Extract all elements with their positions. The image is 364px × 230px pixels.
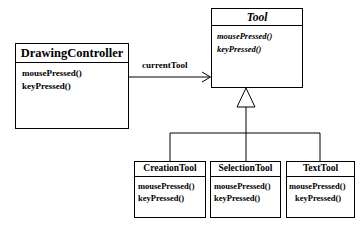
generalization-triangle-icon [237,88,255,107]
class-operations-drawingcontroller: mousePressed() keyPressed() [16,63,128,93]
operation-item: mousePressed() [22,67,124,80]
operation-item: keyPressed() [138,192,201,204]
class-name-selectiontool: SelectionTool [211,162,280,177]
class-box-tool[interactable]: Tool mousePressed() keyPressed() [211,8,303,88]
class-name-texttool: TextTool [287,162,354,177]
association-label-currenttool: currentTool [142,60,188,71]
operation-item: keyPressed() [289,192,350,204]
class-box-texttool[interactable]: TextTool mousePressed() keyPressed() [286,161,355,218]
class-name-creationtool: CreationTool [135,162,205,177]
class-operations-texttool: mousePressed() keyPressed() [287,177,354,204]
class-name-tool: Tool [212,9,302,26]
class-operations-creationtool: mousePressed() keyPressed() [135,177,205,204]
class-box-drawingcontroller[interactable]: DrawingController mousePressed() keyPres… [15,43,129,129]
operation-item: mousePressed() [138,180,201,192]
class-box-selectiontool[interactable]: SelectionTool mousePressed() keyPressed(… [210,161,281,218]
class-operations-tool: mousePressed() keyPressed() [212,26,302,56]
uml-class-diagram: Tool mousePressed() keyPressed() Drawing… [0,0,364,230]
class-operations-selectiontool: mousePressed() keyPressed() [211,177,280,204]
operation-item: mousePressed() [214,180,276,192]
operation-item: mousePressed() [217,30,298,43]
operation-item: keyPressed() [22,80,124,93]
operation-item: keyPressed() [214,192,276,204]
class-name-drawingcontroller: DrawingController [16,44,128,63]
operation-item: keyPressed() [217,43,298,56]
association-arrowhead-icon [202,72,211,82]
class-box-creationtool[interactable]: CreationTool mousePressed() keyPressed() [134,161,206,218]
operation-item: mousePressed() [289,180,350,192]
